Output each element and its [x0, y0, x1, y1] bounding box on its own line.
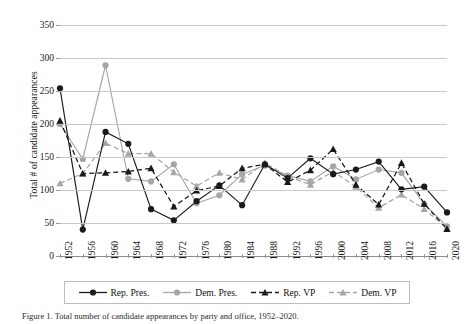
plot-area: 050100150200250300350	[60, 25, 447, 256]
figure-container: Total # of candidate appearances 0501001…	[0, 0, 468, 324]
data-point-marker	[148, 178, 154, 184]
legend-swatch-triangle-icon	[328, 287, 358, 298]
x-axis-tick-label: 1972	[178, 241, 188, 260]
x-axis-tick-label: 2008	[383, 241, 393, 260]
series-dem-pres	[57, 62, 450, 229]
data-point-marker	[125, 141, 131, 147]
y-axis-tickmark	[56, 190, 60, 191]
data-point-marker	[148, 206, 154, 212]
x-axis-tick-label: 1952	[64, 241, 74, 260]
y-axis-tick-label: 100	[40, 185, 54, 195]
y-axis-tick-label: 350	[40, 20, 54, 30]
data-point-marker	[102, 129, 108, 135]
x-axis-tick-label: 1996	[314, 241, 324, 260]
series-line	[60, 88, 447, 229]
series-rep-pres	[57, 85, 450, 232]
y-axis-tickmark	[56, 124, 60, 125]
chart-legend: Rep. Pres.Dem. Pres.Rep. VPDem. VP	[64, 281, 410, 304]
y-axis-tick-label: 0	[49, 251, 54, 261]
legend-item-rep-pres[interactable]: Rep. Pres.	[78, 287, 150, 298]
data-point-marker	[239, 165, 246, 172]
legend-item-rep-vp[interactable]: Rep. VP	[250, 287, 315, 298]
data-point-marker	[216, 169, 223, 176]
x-axis-tick-label: 1984	[246, 241, 256, 260]
data-point-marker	[56, 117, 63, 124]
y-axis-tick-label: 150	[40, 152, 54, 162]
series-rep-vp	[56, 117, 450, 232]
legend-label: Rep. VP	[283, 288, 315, 298]
x-axis-tickmark	[83, 254, 84, 258]
x-axis-tickmark	[401, 254, 402, 258]
data-point-marker	[376, 159, 382, 165]
x-axis-tickmark	[265, 254, 266, 258]
y-axis-tick-label: 300	[40, 53, 54, 63]
x-axis-tick-label: 1964	[132, 241, 142, 260]
gridline	[60, 157, 447, 158]
y-axis-title: Total # of candidate appearances	[29, 25, 39, 245]
data-point-marker	[421, 184, 427, 190]
data-point-marker	[398, 170, 404, 176]
data-point-marker	[193, 198, 199, 204]
x-axis-tick-label: 2016	[428, 241, 438, 260]
gridline	[60, 190, 447, 191]
legend-swatch-circle-icon	[162, 287, 192, 298]
x-axis-tick-label: 1980	[223, 241, 233, 260]
data-point-marker	[444, 209, 450, 215]
legend-swatch-circle-icon	[78, 287, 108, 298]
legend-swatch-triangle-icon	[250, 287, 280, 298]
data-point-marker	[376, 166, 382, 172]
data-point-marker	[398, 159, 405, 166]
x-axis-tickmark	[151, 254, 152, 258]
y-axis-tickmark	[56, 91, 60, 92]
x-axis-tickmark	[242, 254, 243, 258]
data-point-marker	[330, 145, 337, 152]
data-point-marker	[216, 192, 222, 198]
data-point-marker	[353, 166, 359, 172]
x-axis-tickmark	[174, 254, 175, 258]
data-point-marker	[171, 161, 177, 167]
legend-label: Dem. VP	[361, 288, 396, 298]
figure-caption: Figure 1. Total number of candidate appe…	[22, 311, 452, 322]
legend-item-dem-vp[interactable]: Dem. VP	[328, 287, 396, 298]
x-axis-tickmark	[379, 254, 380, 258]
data-point-marker	[239, 202, 245, 208]
x-axis-tickmark	[424, 254, 425, 258]
data-point-marker	[330, 171, 336, 177]
data-point-marker	[125, 176, 131, 182]
gridline	[60, 91, 447, 92]
x-axis-tick-label: 1968	[155, 241, 165, 260]
x-axis-tick-label: 1992	[292, 241, 302, 260]
y-axis-tick-label: 50	[45, 218, 55, 228]
data-point-marker	[56, 180, 63, 187]
gridline	[60, 58, 447, 59]
data-point-marker	[147, 165, 154, 172]
legend-label: Rep. Pres.	[111, 288, 150, 298]
x-axis-tickmark	[128, 254, 129, 258]
gridline	[60, 223, 447, 224]
y-axis-tickmark	[56, 223, 60, 224]
data-point-marker	[102, 62, 108, 68]
data-point-marker	[170, 203, 177, 210]
x-axis-tickmark	[106, 254, 107, 258]
x-axis-tick-label: 1976	[201, 241, 211, 260]
x-axis-tickmark	[356, 254, 357, 258]
x-axis-tickmark	[60, 254, 61, 258]
y-axis-tickmark	[56, 157, 60, 158]
x-axis-tick-label: 2004	[360, 241, 370, 260]
x-axis-tick-label: 2012	[405, 241, 415, 260]
y-axis-tickmark	[56, 25, 60, 26]
x-axis-tick-label: 1956	[87, 241, 97, 260]
x-axis-tick-label: 2000	[337, 241, 347, 260]
legend-label: Dem. Pres.	[195, 288, 237, 298]
y-axis-tickmark	[56, 58, 60, 59]
data-point-marker	[80, 227, 86, 233]
x-axis-tickmark	[288, 254, 289, 258]
x-axis-tick-label: 1988	[269, 241, 279, 260]
x-axis-tickmark	[447, 254, 448, 258]
legend-item-dem-pres[interactable]: Dem. Pres.	[162, 287, 237, 298]
x-axis-tick-label: 2020	[451, 241, 461, 260]
gridline	[60, 25, 447, 26]
x-axis-tickmark	[310, 254, 311, 258]
series-layer	[60, 25, 447, 256]
x-axis-tickmark	[197, 254, 198, 258]
